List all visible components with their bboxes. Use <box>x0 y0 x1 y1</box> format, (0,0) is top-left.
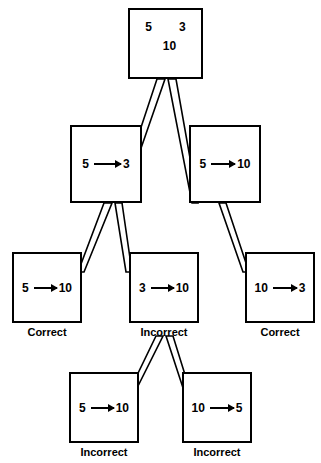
node-l3-right-caption: Incorrect <box>182 447 252 458</box>
node-l3-left-content: 5 10 <box>71 374 137 441</box>
expression-from: 5 <box>22 282 29 294</box>
arrow-icon <box>210 407 234 409</box>
expression-to: 10 <box>176 282 189 294</box>
expression-from: 5 <box>199 158 206 170</box>
arrow-icon <box>91 407 114 409</box>
edge-l1-left-to-l2-left <box>78 203 112 272</box>
node-root-operands: 5 3 <box>130 21 201 33</box>
node-l3-right-content: 10 5 <box>184 374 250 441</box>
node-l2-right[interactable]: 10 3 <box>245 252 315 323</box>
expression-to: 3 <box>299 282 306 294</box>
expression-to: 5 <box>236 402 243 414</box>
expression-from: 5 <box>79 402 86 414</box>
arrow-icon <box>34 287 57 289</box>
arrow-icon <box>211 163 235 165</box>
expression-from: 10 <box>254 282 267 294</box>
node-l3-left[interactable]: 5 10 <box>69 372 139 443</box>
expression: 5 10 <box>14 282 80 294</box>
node-l2-mid[interactable]: 3 10 <box>129 252 199 323</box>
expression: 5 10 <box>191 158 259 170</box>
node-root[interactable]: 5 3 10 <box>128 8 203 79</box>
expression-to: 10 <box>237 158 250 170</box>
expression-from: 3 <box>139 282 146 294</box>
node-l1-left-content: 5 3 <box>72 127 140 201</box>
node-l2-right-caption: Correct <box>245 327 315 338</box>
expression: 10 5 <box>184 402 250 414</box>
expression: 10 3 <box>247 282 313 294</box>
arrow-icon <box>94 163 121 165</box>
expression-to: 3 <box>123 158 130 170</box>
node-root-operand-2: 3 <box>179 21 186 33</box>
node-l2-left[interactable]: 5 10 <box>12 252 82 323</box>
node-root-content: 5 3 10 <box>130 10 201 88</box>
node-l2-mid-content: 3 10 <box>131 254 197 321</box>
node-root-operand-1: 5 <box>145 21 152 33</box>
expression-to: 10 <box>116 402 129 414</box>
node-l1-right-content: 5 10 <box>191 127 259 201</box>
search-tree-diagram: 5 3 10 5 3 5 10 5 <box>0 0 321 463</box>
expression-from: 10 <box>191 402 204 414</box>
expression-to: 10 <box>59 282 72 294</box>
node-l2-right-content: 10 3 <box>247 254 313 321</box>
node-l2-left-caption: Correct <box>12 327 82 338</box>
arrow-icon <box>273 287 297 289</box>
expression-from: 5 <box>82 158 89 170</box>
node-root-result: 10 <box>163 40 176 52</box>
expression: 5 10 <box>71 402 137 414</box>
expression: 3 10 <box>131 282 197 294</box>
node-l3-left-caption: Incorrect <box>69 447 139 458</box>
node-l2-left-content: 5 10 <box>14 254 80 321</box>
node-l1-left[interactable]: 5 3 <box>70 125 142 203</box>
expression: 5 3 <box>72 158 140 170</box>
arrow-icon <box>151 287 174 289</box>
node-l2-mid-caption: Incorrect <box>129 327 199 338</box>
node-l3-right[interactable]: 10 5 <box>182 372 252 443</box>
node-l1-right[interactable]: 5 10 <box>189 125 261 203</box>
